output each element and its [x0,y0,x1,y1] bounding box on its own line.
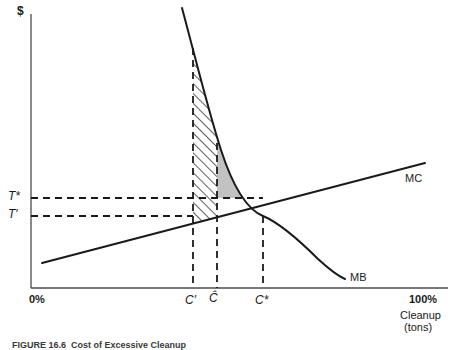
x-tick-label-min: 0% [29,294,45,306]
y-axis-label: $ [17,5,24,18]
x-tick-label-cprime: C′ [185,294,196,307]
x-axis-label-line2: (tons) [404,322,432,334]
x-tick-label-cstar: C* [255,294,268,307]
mc-curve-label: MC [405,173,422,185]
figure-container: $ T* T′ 0% 100% C′ Ĉ C* MC MB Cleanup (t… [0,0,459,350]
economics-plot [0,0,459,350]
x-tick-label-max: 100% [409,294,437,306]
mc-curve [42,163,425,263]
figure-caption: FIGURE 16.6 Cost of Excessive Cleanup [12,341,186,350]
x-axis-label-line1: Cleanup [400,310,441,322]
y-tick-label-tstar: T* [8,190,20,203]
gray-loss-region [217,0,263,198]
x-tick-label-chat: Ĉ [209,292,218,305]
hatched-loss-region [193,0,217,300]
mb-curve-label: MB [350,272,367,284]
y-tick-label-tprime: T′ [8,208,18,221]
